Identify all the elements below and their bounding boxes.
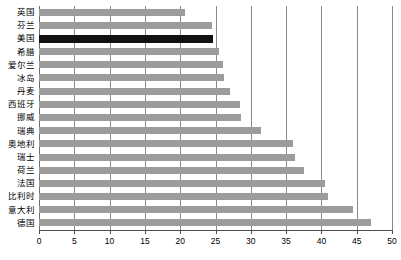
bar-比利时 — [39, 193, 328, 200]
bar-希腊 — [39, 48, 219, 55]
plot-area — [39, 6, 392, 230]
x-tick-30 — [251, 230, 252, 234]
category-label-冰岛: 冰岛 — [0, 72, 35, 85]
bar-瑞士 — [39, 154, 295, 161]
x-tick-5 — [74, 230, 75, 234]
bar-爱尔兰 — [39, 61, 223, 68]
x-tick-label-35: 35 — [281, 236, 290, 246]
bar-荷兰 — [39, 167, 304, 174]
category-label-德国: 德国 — [0, 217, 35, 230]
category-label-丹麦: 丹麦 — [0, 85, 35, 98]
category-label-爱尔兰: 爱尔兰 — [0, 59, 35, 72]
category-label-芬兰: 芬兰 — [0, 19, 35, 32]
bar-英国 — [39, 9, 185, 16]
bar-挪威 — [39, 114, 241, 121]
x-tick-label-5: 5 — [72, 236, 77, 246]
category-label-瑞典: 瑞典 — [0, 125, 35, 138]
bar-row — [39, 98, 392, 111]
bar-row — [39, 72, 392, 85]
category-label-意大利: 意大利 — [0, 204, 35, 217]
bar-row — [39, 164, 392, 177]
x-tick-label-15: 15 — [140, 236, 149, 246]
bar-德国 — [39, 219, 371, 226]
bar-奥地利 — [39, 140, 293, 147]
bar-芬兰 — [39, 22, 212, 29]
x-tick-20 — [180, 230, 181, 234]
category-label-荷兰: 荷兰 — [0, 164, 35, 177]
bar-row — [39, 32, 392, 45]
category-label-美国: 美国 — [0, 32, 35, 45]
x-tick-25 — [216, 230, 217, 234]
x-tick-label-40: 40 — [317, 236, 326, 246]
bar-row — [39, 138, 392, 151]
bar-法国 — [39, 180, 325, 187]
category-label-英国: 英国 — [0, 6, 35, 19]
x-tick-label-0: 0 — [37, 236, 42, 246]
bar-row — [39, 204, 392, 217]
bar-冰岛 — [39, 74, 224, 81]
bar-row — [39, 6, 392, 19]
bar-瑞典 — [39, 127, 261, 134]
x-tick-35 — [286, 230, 287, 234]
bar-row — [39, 59, 392, 72]
bar-row — [39, 190, 392, 203]
bar-row — [39, 19, 392, 32]
bar-row — [39, 111, 392, 124]
x-tick-label-20: 20 — [175, 236, 184, 246]
bar-丹麦 — [39, 88, 230, 95]
bar-row — [39, 46, 392, 59]
category-label-希腊: 希腊 — [0, 46, 35, 59]
x-tick-10 — [110, 230, 111, 234]
bar-chart: 英国芬兰美国希腊爱尔兰冰岛丹麦西班牙挪威瑞典奥地利瑞士荷兰法国比利时意大利德国 … — [0, 0, 401, 260]
x-tick-0 — [39, 230, 40, 234]
x-tick-50 — [392, 230, 393, 234]
category-label-瑞士: 瑞士 — [0, 151, 35, 164]
bar-row — [39, 151, 392, 164]
category-axis-labels: 英国芬兰美国希腊爱尔兰冰岛丹麦西班牙挪威瑞典奥地利瑞士荷兰法国比利时意大利德国 — [0, 6, 35, 230]
x-tick-label-25: 25 — [211, 236, 220, 246]
x-tick-label-45: 45 — [352, 236, 361, 246]
category-label-比利时: 比利时 — [0, 190, 35, 203]
x-tick-label-10: 10 — [105, 236, 114, 246]
bar-row — [39, 85, 392, 98]
bar-意大利 — [39, 206, 353, 213]
bar-row — [39, 217, 392, 230]
x-tick-45 — [357, 230, 358, 234]
category-label-挪威: 挪威 — [0, 111, 35, 124]
category-label-奥地利: 奥地利 — [0, 138, 35, 151]
x-tick-label-30: 30 — [246, 236, 255, 246]
category-label-西班牙: 西班牙 — [0, 98, 35, 111]
category-label-法国: 法国 — [0, 177, 35, 190]
gridline-50 — [392, 6, 393, 230]
x-tick-15 — [145, 230, 146, 234]
bar-西班牙 — [39, 101, 240, 108]
bar-美国 — [39, 35, 213, 43]
bar-row — [39, 177, 392, 190]
x-tick-label-50: 50 — [387, 236, 396, 246]
x-tick-40 — [321, 230, 322, 234]
bar-row — [39, 125, 392, 138]
